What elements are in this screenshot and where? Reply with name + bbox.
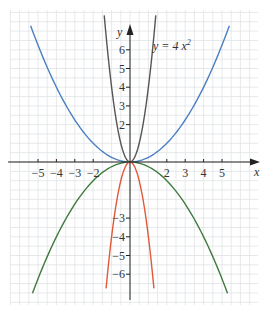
x-tick-label: −4	[50, 166, 63, 180]
x-tick-label: 4	[201, 166, 207, 180]
annotation-text: y = 4 x	[152, 39, 187, 53]
y-tick-label: 5	[119, 62, 125, 76]
annotation-exponent: 2	[187, 38, 191, 47]
x-tick-label: −2	[87, 166, 100, 180]
x-tick-label: −5	[32, 166, 45, 180]
y-tick-label: −3	[112, 211, 125, 225]
y-tick-label: −5	[112, 249, 125, 263]
x-tick-label: 3	[182, 166, 188, 180]
y-tick-label: −4	[112, 230, 125, 244]
parabolas-chart: −5−4−3−22345−6−5−4−323456 x y y = 4 x2	[0, 0, 267, 313]
x-tick-label: 2	[164, 166, 170, 180]
y-axis-arrow-icon	[127, 24, 134, 35]
y-tick-label: 6	[119, 43, 125, 57]
curve-annotation: y = 4 x2	[152, 38, 191, 53]
x-axis-label: x	[253, 165, 260, 179]
y-tick-label: 3	[119, 99, 125, 113]
y-tick-label: −6	[112, 267, 125, 281]
y-tick-label: 4	[119, 80, 125, 94]
y-tick-label: 2	[119, 118, 125, 132]
x-tick-label: 5	[219, 166, 225, 180]
x-tick-label: −3	[68, 166, 81, 180]
y-axis-label: y	[116, 25, 123, 39]
